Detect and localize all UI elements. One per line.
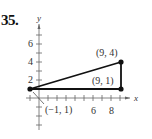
x-tick-label-8: 8	[109, 105, 114, 116]
x-tick-label-6: 6	[91, 105, 96, 116]
y-tick-label-6: 6	[28, 38, 33, 49]
point-9-4	[118, 59, 123, 64]
point-neg1-1	[27, 86, 32, 91]
coordinate-plot: y x 6 4 2 6 8 (9, 4) (9, 1) (−1, 1)	[0, 0, 152, 139]
point-label-neg1-1: (−1, 1)	[45, 104, 72, 116]
y-axis-label: y	[36, 13, 41, 23]
y-axis	[36, 24, 42, 130]
point-label-9-1: (9, 1)	[92, 75, 114, 87]
point-label-9-4: (9, 4)	[96, 47, 118, 59]
x-axis	[26, 95, 130, 101]
point-9-1	[118, 86, 123, 91]
x-axis-label: x	[133, 93, 138, 103]
x-axis-arrow-icon	[125, 97, 130, 100]
y-tick-label-4: 4	[28, 56, 33, 67]
y-tick-label-2: 2	[28, 74, 33, 85]
y-axis-arrow-icon	[38, 24, 41, 29]
